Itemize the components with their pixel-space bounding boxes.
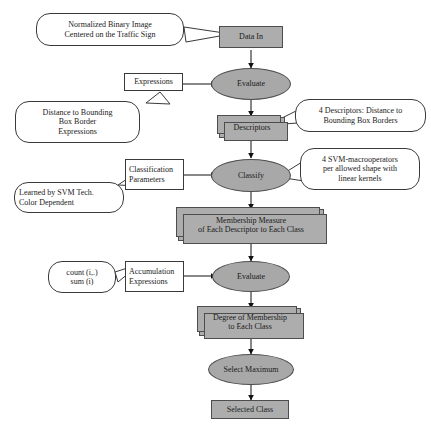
node-degree-of-membership[interactable]: Degree of Membership to Each Class: [199, 308, 301, 336]
callout-input-note-line-1: Normalized Binary Image: [68, 20, 152, 29]
callout-classification-params-note-line-1: Learned by SVM Tech.: [19, 188, 94, 197]
node-evaluate-2[interactable]: Evaluate: [212, 261, 290, 292]
param-classification-parameters[interactable]: Classification Parameters: [125, 159, 184, 190]
node-select-maximum[interactable]: Select Maximum: [208, 354, 294, 385]
callout-classify-note-line-1: 4 SVM-macrooperators: [322, 155, 398, 164]
node-degree-of-membership-line-2: to Each Class: [228, 322, 272, 331]
callout-accumulation-note-line-1: count (i,.): [66, 268, 97, 277]
node-degree-of-membership-line-1: Degree of Membership: [213, 313, 287, 322]
callout-expressions-note: Distance to Bounding Box Border Expressi…: [15, 101, 140, 143]
flowchart-canvas: Data In Evaluate Descriptors Classify Me…: [0, 0, 431, 439]
node-selected-class-label: Selected Class: [227, 405, 273, 414]
param-expressions[interactable]: Expressions: [124, 73, 183, 91]
node-membership-measure[interactable]: Membership Measure of Each Descriptor to…: [178, 209, 324, 241]
callout-descriptors-note-line-1: 4 Descriptors: Distance to: [319, 106, 402, 115]
node-membership-measure-line-2: of Each Descriptor to Each Class: [198, 225, 304, 234]
node-classify[interactable]: Classify: [211, 159, 291, 192]
node-data-in[interactable]: Data In: [219, 26, 283, 48]
callout-expressions-note-line-3: Expressions: [58, 127, 97, 136]
callout-classify-note-line-3: linear kernels: [338, 174, 381, 183]
callout-classify-note: 4 SVM-macrooperators per allowed shape w…: [300, 148, 420, 190]
param-classification-parameters-line-2: Parameters: [129, 175, 165, 184]
node-descriptors-label: Descriptors: [234, 123, 271, 132]
node-selected-class[interactable]: Selected Class: [211, 400, 289, 419]
callout-input-note-line-2: Centered on the Traffic Sign: [65, 30, 156, 39]
callout-expressions-note-line-1: Distance to Bounding: [43, 108, 113, 117]
node-evaluate-1[interactable]: Evaluate: [211, 68, 291, 100]
callout-descriptors-note-line-2: Bounding Box Borders: [323, 116, 397, 125]
callout-expressions-note-line-2: Box Border: [59, 117, 97, 126]
param-accumulation-expressions-line-2: Expressions: [129, 277, 168, 286]
param-classification-parameters-line-1: Classification: [129, 165, 173, 174]
node-classify-label: Classify: [238, 171, 264, 180]
node-descriptors[interactable]: Descriptors: [219, 117, 285, 138]
callout-descriptors-note: 4 Descriptors: Distance to Bounding Box …: [295, 99, 426, 132]
callout-accumulation-note: count (i,.) sum (i): [48, 261, 116, 293]
node-evaluate-1-label: Evaluate: [237, 79, 265, 88]
node-evaluate-2-label: Evaluate: [237, 272, 265, 281]
callout-accumulation-note-line-2: sum (i): [71, 277, 94, 286]
node-data-in-label: Data In: [239, 32, 263, 41]
callout-classify-note-line-2: per allowed shape with: [323, 164, 397, 173]
param-accumulation-expressions-line-1: Accumulation: [129, 267, 174, 276]
param-accumulation-expressions[interactable]: Accumulation Expressions: [125, 261, 184, 292]
callout-classification-params-note: Learned by SVM Tech. Color Dependent: [14, 182, 124, 213]
param-expressions-label: Expressions: [134, 77, 173, 86]
callout-input-note: Normalized Binary Image Centered on the …: [36, 13, 184, 46]
callout-classification-params-note-line-2: Color Dependent: [19, 198, 74, 207]
node-membership-measure-line-1: Membership Measure: [216, 216, 286, 225]
tail-expressions-note: [146, 92, 170, 104]
node-select-maximum-label: Select Maximum: [224, 365, 279, 374]
